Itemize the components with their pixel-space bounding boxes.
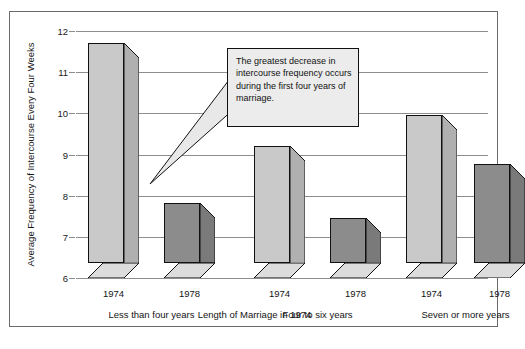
y-tick-mark — [69, 31, 75, 32]
x-tick-label-year: 1978 — [345, 288, 366, 299]
bar-side-face — [200, 203, 215, 263]
bar-side-face — [442, 115, 457, 263]
y-tick-label: 12 — [57, 26, 68, 37]
y-tick-label: 7 — [63, 231, 68, 242]
y-tick-mark — [69, 196, 75, 197]
y-tick-label: 10 — [57, 108, 68, 119]
annotation-callout: The greatest decrease in intercourse fre… — [227, 48, 359, 127]
bar-1978-3 — [330, 218, 366, 278]
bar-base-face — [330, 263, 381, 278]
x-tick-label-year: 1978 — [179, 288, 200, 299]
bar-front-face — [254, 146, 290, 263]
bar-front-face — [406, 115, 442, 263]
bar-base-face — [164, 263, 215, 278]
bar-1978-1 — [164, 203, 200, 278]
x-tick-label-year: 1974 — [421, 288, 442, 299]
bar-front-face — [88, 43, 124, 263]
bar-1974-0 — [88, 43, 124, 278]
y-tick-mark — [69, 237, 75, 238]
y-tick-mark — [69, 72, 75, 73]
gridline — [76, 31, 488, 32]
y-tick-label: 9 — [63, 149, 68, 160]
bar-side-face — [124, 43, 139, 263]
x-tick-label-year: 1974 — [269, 288, 290, 299]
bar-side-face — [510, 164, 525, 263]
x-axis-title: Length of Marriage in 1974 — [10, 309, 499, 320]
bar-side-face — [366, 218, 381, 263]
y-tick-mark — [69, 278, 75, 279]
bar-base-face — [406, 263, 457, 278]
x-tick-label-year: 1974 — [103, 288, 124, 299]
bar-1974-4 — [406, 115, 442, 278]
chart-frame: Average Frequency of Intercourse Every F… — [9, 11, 498, 327]
y-tick-mark — [69, 113, 75, 114]
callout-pointer-icon — [150, 72, 235, 184]
bar-base-face — [474, 263, 525, 278]
bar-side-face — [290, 146, 305, 263]
bar-front-face — [164, 203, 200, 263]
y-tick-label: 11 — [58, 67, 68, 78]
bar-base-face — [88, 263, 139, 278]
y-tick-mark — [69, 155, 75, 156]
cropped-header-strip — [0, 0, 511, 9]
bar-front-face — [474, 164, 510, 263]
bar-base-face — [254, 263, 305, 278]
x-tick-label-year: 1978 — [489, 288, 510, 299]
bar-1974-2 — [254, 146, 290, 278]
gridline — [76, 278, 488, 279]
bar-front-face — [330, 218, 366, 263]
y-tick-label: 6 — [63, 273, 68, 284]
y-axis-title: Average Frequency of Intercourse Every F… — [24, 31, 38, 278]
bar-1978-5 — [474, 164, 510, 278]
annotation-callout-text: The greatest decrease in intercourse fre… — [236, 55, 354, 105]
y-tick-label: 8 — [63, 190, 68, 201]
